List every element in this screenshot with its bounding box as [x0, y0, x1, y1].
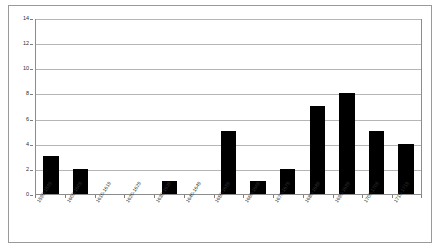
bar-slot [332, 20, 362, 194]
y-tick-mark [30, 145, 33, 146]
y-tick-label: 12 [23, 41, 29, 47]
x-label-slot: 1610-1619 [95, 199, 125, 243]
y-tick-label: 0 [26, 192, 29, 198]
y-tick-mark [30, 94, 33, 95]
x-label-slot: 1700-1709 [362, 199, 392, 243]
bar-slot [214, 20, 244, 194]
bar-slot [184, 20, 214, 194]
bar-slot [391, 20, 421, 194]
x-label-slot: 1600-1609 [65, 199, 95, 243]
y-tick-mark [30, 69, 33, 70]
y-tick-label: 8 [26, 92, 29, 98]
y-tick-label: 2 [26, 167, 29, 173]
bar-slot [243, 20, 273, 194]
bar [339, 93, 354, 194]
bar-slot [125, 20, 155, 194]
y-tick-mark [30, 170, 33, 171]
y-tick-label: 10 [23, 67, 29, 73]
x-label-slot: 1690-1699 [333, 199, 363, 243]
chart-frame: 02468101214 1590-15991600-16091610-16191… [8, 5, 432, 243]
bar-slot [154, 20, 184, 194]
bar-slot [36, 20, 66, 194]
x-tick-mark [421, 195, 422, 198]
y-tick-label: 14 [23, 16, 29, 22]
x-axis-labels: 1590-15991600-16091610-16191620-16291630… [35, 199, 422, 243]
x-label-slot: 1680-1689 [303, 199, 333, 243]
bar-slot [302, 20, 332, 194]
y-axis: 02468101214 [9, 19, 33, 195]
bar-series [36, 20, 421, 194]
plot-area [35, 19, 422, 195]
x-label-slot: 1630-1639 [154, 199, 184, 243]
bar-slot [362, 20, 392, 194]
x-label-slot: 1660-1669 [243, 199, 273, 243]
y-tick-mark [30, 195, 33, 196]
x-label-slot: 1590-1599 [35, 199, 65, 243]
x-label-slot: 1640-1649 [184, 199, 214, 243]
y-tick-label: 6 [26, 117, 29, 123]
y-tick-mark [30, 19, 33, 20]
x-label-slot: 1670-1679 [273, 199, 303, 243]
y-tick-label: 4 [26, 142, 29, 148]
x-label-slot: 1710-1719 [392, 199, 422, 243]
y-tick-mark [30, 120, 33, 121]
bar-slot [95, 20, 125, 194]
bar-slot [66, 20, 96, 194]
y-tick-mark [30, 44, 33, 45]
x-label-slot: 1650-1659 [214, 199, 244, 243]
bar-slot [273, 20, 303, 194]
x-label-slot: 1620-1629 [124, 199, 154, 243]
